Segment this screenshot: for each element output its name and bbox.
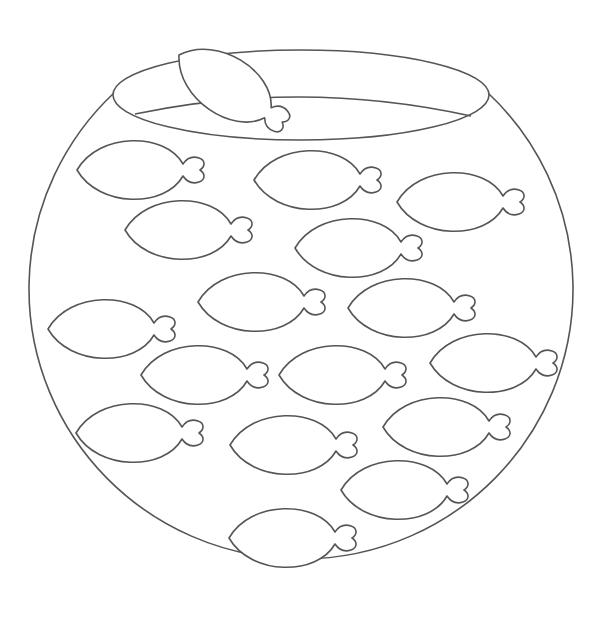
fish-group [48,141,557,568]
bowl-rim [113,50,489,140]
fish-icon [279,346,406,405]
fish-icon [295,219,422,278]
fish-icon [430,334,557,393]
fish-icon [397,173,524,232]
fish-icon [230,416,357,475]
fish-icon [141,346,268,405]
fish-icon [341,461,468,520]
fish-icon [125,201,252,260]
fish-bowl-svg [0,0,601,620]
fish-icon [229,509,356,568]
fish-icon [383,398,510,457]
fish-icon [348,279,475,338]
fish-icon [77,141,204,200]
fish-icon [254,151,381,210]
fish-icon [48,300,175,359]
fish-bowl-drawing [0,0,601,620]
fish-icon [198,273,325,332]
fish-icon [76,404,203,463]
